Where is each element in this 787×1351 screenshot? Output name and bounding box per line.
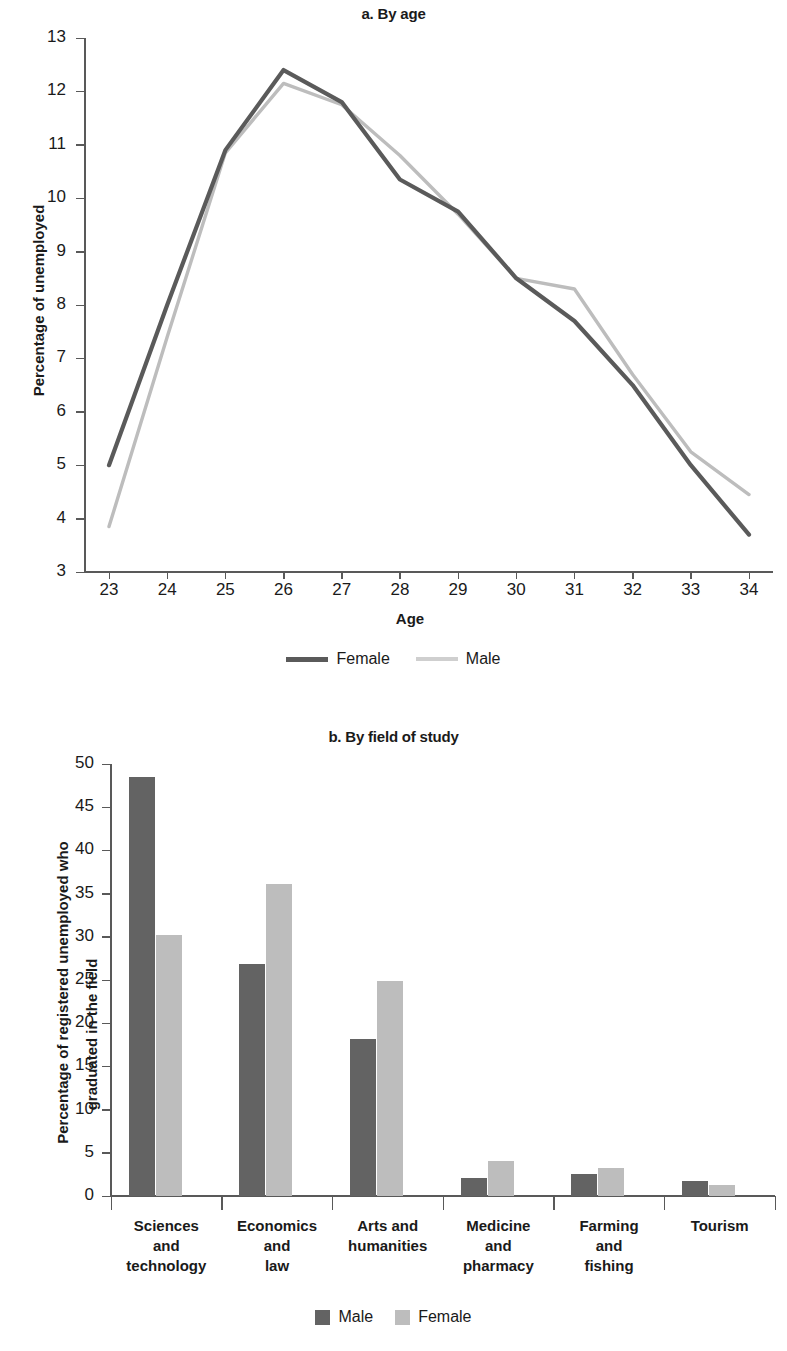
panel-b-y-tick-label: 50 bbox=[50, 753, 94, 773]
panel-b-y-tick-label: 45 bbox=[50, 796, 94, 816]
legend-line-swatch-male bbox=[416, 657, 458, 661]
panel-b-category-separator bbox=[553, 1196, 555, 1210]
panel-a-x-axis-label: Age bbox=[40, 610, 780, 627]
panel-b-y-tick-mark bbox=[102, 893, 110, 895]
panel-a-y-tick-label: 8 bbox=[22, 294, 66, 314]
panel-a-y-tick-label: 4 bbox=[22, 508, 66, 528]
panel-a-x-tick-label: 26 bbox=[254, 580, 314, 600]
legend-label-male: Male bbox=[338, 1308, 373, 1326]
panel-b-y-tick-label: 0 bbox=[50, 1185, 94, 1205]
chart-panel-by-age: a. By age Percentage of unemployed 34567… bbox=[0, 0, 787, 690]
panel-a-y-tick-mark bbox=[76, 465, 84, 467]
legend-item-male: Male bbox=[315, 1308, 373, 1326]
panel-b-category-label: Arts and humanities bbox=[332, 1216, 443, 1256]
panel-a-x-tick-mark bbox=[574, 572, 576, 579]
panel-b-category-label: Economics and law bbox=[222, 1216, 333, 1275]
panel-b-category-label: Sciences and technology bbox=[111, 1216, 222, 1275]
panel-a-y-tick-label: 9 bbox=[22, 241, 66, 261]
panel-a-x-tick-mark bbox=[399, 572, 401, 579]
legend-label-male: Male bbox=[466, 650, 501, 668]
bar-female bbox=[488, 1161, 514, 1196]
bar-male bbox=[129, 777, 155, 1196]
panel-b-y-tick-mark bbox=[102, 936, 110, 938]
panel-b-y-tick-mark bbox=[102, 1152, 110, 1154]
panel-b-y-tick-label: 40 bbox=[50, 839, 94, 859]
panel-b-category-label: Medicine and pharmacy bbox=[443, 1216, 554, 1275]
panel-a-y-tick-mark bbox=[76, 91, 84, 93]
panel-b-category-separator bbox=[775, 1196, 777, 1210]
panel-b-y-tick-label: 20 bbox=[50, 1012, 94, 1032]
panel-a-y-tick-label: 3 bbox=[22, 561, 66, 581]
panel-a-x-tick-label: 25 bbox=[195, 580, 255, 600]
panel-a-x-tick-label: 29 bbox=[428, 580, 488, 600]
panel-a-x-tick-label: 24 bbox=[137, 580, 197, 600]
panel-a-y-tick-mark bbox=[76, 358, 84, 360]
panel-a-x-tick-label: 23 bbox=[79, 580, 139, 600]
bar-male bbox=[682, 1181, 708, 1196]
panel-a-y-tick-mark bbox=[76, 251, 84, 253]
panel-b-y-tick-label: 5 bbox=[50, 1142, 94, 1162]
panel-b-y-tick-mark bbox=[102, 807, 110, 809]
panel-a-x-tick-mark bbox=[632, 572, 634, 579]
panel-a-y-tick-mark bbox=[76, 305, 84, 307]
legend-label-female: Female bbox=[336, 650, 389, 668]
legend-box-swatch-female bbox=[395, 1310, 410, 1325]
panel-b-category-separator bbox=[664, 1196, 666, 1210]
panel-a-title: a. By age bbox=[0, 5, 787, 22]
panel-b-y-tick-label: 30 bbox=[50, 926, 94, 946]
panel-b-y-tick-label: 15 bbox=[50, 1055, 94, 1075]
panel-a-x-tick-mark bbox=[458, 572, 460, 579]
panel-a-x-tick-label: 34 bbox=[719, 580, 779, 600]
panel-a-y-tick-mark bbox=[76, 572, 84, 574]
legend-box-swatch-male bbox=[315, 1310, 330, 1325]
panel-a-y-tick-mark bbox=[76, 198, 84, 200]
panel-a-x-tick-mark bbox=[516, 572, 518, 579]
panel-b-category-separator bbox=[221, 1196, 223, 1210]
bar-male bbox=[571, 1174, 597, 1196]
panel-a-y-tick-label: 5 bbox=[22, 454, 66, 474]
panel-b-category-label: Tourism bbox=[664, 1216, 775, 1236]
panel-a-y-tick-label: 6 bbox=[22, 401, 66, 421]
legend-label-female: Female bbox=[418, 1308, 471, 1326]
panel-a-legend: Female Male bbox=[0, 650, 787, 668]
panel-b-y-tick-label: 10 bbox=[50, 1099, 94, 1119]
panel-b-y-tick-mark bbox=[102, 1196, 110, 1198]
panel-a-x-tick-label: 28 bbox=[370, 580, 430, 600]
legend-item-female: Female bbox=[286, 650, 389, 668]
panel-a-x-tick-mark bbox=[283, 572, 285, 579]
panel-b-title: b. By field of study bbox=[0, 728, 787, 745]
panel-b-legend: Male Female bbox=[0, 1308, 787, 1326]
panel-b-y-tick-mark bbox=[102, 850, 110, 852]
panel-a-x-tick-mark bbox=[690, 572, 692, 579]
panel-a-x-tick-label: 31 bbox=[544, 580, 604, 600]
panel-b-plot-area bbox=[111, 764, 775, 1196]
bar-male bbox=[350, 1039, 376, 1196]
panel-a-line-female bbox=[109, 70, 749, 535]
panel-a-line-male bbox=[109, 83, 749, 526]
bar-female bbox=[156, 935, 182, 1196]
panel-a-plot-area bbox=[84, 38, 774, 572]
panel-a-x-tick-mark bbox=[109, 572, 111, 579]
panel-a-y-tick-mark bbox=[76, 38, 84, 40]
panel-a-x-tick-mark bbox=[749, 572, 751, 579]
panel-a-x-tick-mark bbox=[225, 572, 227, 579]
panel-a-y-tick-label: 12 bbox=[22, 80, 66, 100]
panel-b-y-tick-mark bbox=[102, 980, 110, 982]
panel-a-x-tick-mark bbox=[167, 572, 169, 579]
panel-b-category-label: Farming and fishing bbox=[554, 1216, 665, 1275]
bar-male bbox=[239, 964, 265, 1196]
panel-a-x-tick-label: 33 bbox=[661, 580, 721, 600]
panel-a-y-tick-label: 7 bbox=[22, 347, 66, 367]
bar-female bbox=[598, 1168, 624, 1196]
panel-a-y-tick-label: 11 bbox=[22, 134, 66, 154]
panel-a-y-tick-mark bbox=[76, 411, 84, 413]
panel-b-category-separator bbox=[443, 1196, 445, 1210]
bar-male bbox=[461, 1178, 487, 1196]
bar-female bbox=[709, 1185, 735, 1196]
panel-b-y-tick-mark bbox=[102, 1023, 110, 1025]
legend-item-male: Male bbox=[416, 650, 501, 668]
bar-female bbox=[377, 981, 403, 1196]
panel-a-y-tick-label: 13 bbox=[22, 27, 66, 47]
chart-panel-by-field: b. By field of study Percentage of regis… bbox=[0, 700, 787, 1351]
bar-female bbox=[266, 884, 292, 1196]
